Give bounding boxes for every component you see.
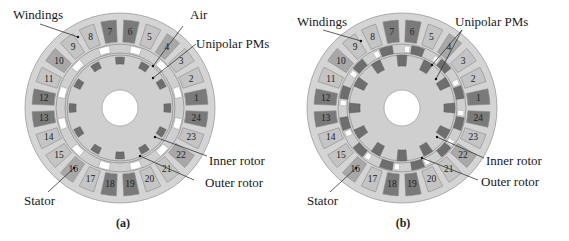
slot-number: 11: [44, 74, 53, 84]
label-outer-rotor-b: Outer rotor: [481, 174, 540, 189]
slot-number: 14: [326, 132, 336, 142]
slot-number: 11: [326, 74, 335, 84]
slot-number: 23: [186, 132, 196, 142]
slot-number: 6: [128, 27, 133, 37]
slot-number: 15: [336, 150, 346, 160]
slot-number: 7: [390, 27, 395, 37]
slot-number: 1: [194, 93, 199, 103]
label-unipolar-pms-b: Unipolar PMs: [455, 14, 528, 29]
label-unipolar-pms-a: Unipolar PMs: [196, 36, 269, 51]
slot-number: 22: [176, 150, 186, 160]
air-slot: [458, 110, 464, 116]
unipolar-pm: [115, 57, 124, 64]
slot-number: 21: [444, 164, 454, 174]
slot-number: 8: [370, 32, 375, 42]
unipolar-pm-inner: [349, 103, 360, 113]
slot-number: 5: [147, 32, 152, 42]
motor-diagram-figure: 123456789101112131415161718192021222324 …: [0, 0, 569, 241]
label-stator-a: Stator: [24, 193, 56, 208]
slot-number: 7: [108, 27, 113, 37]
shaft-hole: [384, 90, 420, 126]
slot-number: 2: [471, 74, 476, 84]
unipolar-pm: [115, 152, 124, 159]
leader-dot: [360, 40, 362, 42]
unipolar-pm: [164, 103, 171, 112]
unipolar-pm-inner: [444, 103, 455, 113]
label-windings-a: Windings: [13, 7, 63, 22]
slot-number: 13: [39, 113, 49, 123]
slot-number: 17: [368, 174, 378, 184]
slot-number: 13: [321, 113, 331, 123]
leader-dot: [77, 36, 79, 38]
slot-number: 22: [458, 150, 468, 160]
unipolar-pm: [69, 103, 76, 112]
slot-number: 19: [407, 179, 417, 189]
slot-number: 15: [54, 150, 64, 160]
leader-dot: [152, 65, 154, 67]
slot-number: 18: [387, 179, 397, 189]
slot-number: 18: [105, 179, 115, 189]
slot-number: 14: [44, 132, 54, 142]
slot-number: 20: [145, 174, 155, 184]
slot-number: 1: [476, 93, 481, 103]
slot-number: 19: [125, 179, 135, 189]
air-slot: [404, 46, 410, 52]
slot-number: 12: [39, 93, 49, 103]
slot-number: 3: [461, 56, 466, 66]
slot-number: 12: [321, 93, 331, 103]
leader-dot: [436, 136, 438, 138]
unipolar-pm-inner: [397, 150, 407, 161]
caption-a: (a): [116, 216, 130, 230]
slot-number: 9: [353, 42, 358, 52]
caption-b: (b): [396, 216, 411, 230]
slot-number: 23: [468, 132, 478, 142]
panel-a: 123456789101112131415161718192021222324: [25, 13, 215, 203]
label-stator-b: Stator: [307, 193, 339, 208]
unipolar-pm-inner: [397, 55, 407, 66]
slot-number: 3: [179, 56, 184, 66]
slot-number: 10: [336, 56, 346, 66]
slot-number: 8: [88, 32, 93, 42]
label-inner-rotor-b: Inner rotor: [486, 153, 543, 168]
label-windings-b: Windings: [297, 14, 347, 29]
leader-dot: [421, 157, 423, 159]
label-outer-rotor-a: Outer rotor: [205, 175, 264, 190]
leader-dot: [431, 64, 433, 66]
slot-number: 5: [429, 32, 434, 42]
slot-number: 6: [410, 27, 415, 37]
slot-number: 24: [474, 113, 484, 123]
leader-dot: [355, 167, 357, 169]
slot-number: 9: [71, 42, 76, 52]
leader-dot: [73, 167, 75, 169]
slot-number: 2: [189, 74, 194, 84]
leader-dot: [435, 78, 437, 80]
label-air-a: Air: [190, 7, 208, 22]
slot-number: 17: [86, 174, 96, 184]
label-inner-rotor-a: Inner rotor: [209, 153, 266, 168]
slot-number: 24: [192, 113, 202, 123]
air-slot: [340, 100, 346, 106]
leader-dot: [152, 77, 154, 79]
air-slot: [394, 164, 400, 170]
slot-number: 10: [54, 56, 64, 66]
panel-b: 123456789101112131415161718192021222324: [307, 13, 497, 203]
leader-dot: [154, 136, 156, 138]
slot-number: 20: [427, 174, 437, 184]
shaft-hole: [102, 90, 138, 126]
leader-dot: [139, 155, 141, 157]
